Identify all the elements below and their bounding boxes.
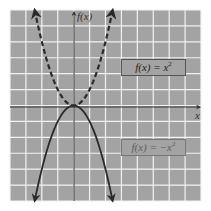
x-axis-label: x [195, 109, 200, 121]
plot-area [0, 0, 211, 211]
legend-exponent-neg-x-squared: 2 [172, 140, 176, 148]
legend-exponent-x-squared: 2 [168, 60, 172, 68]
legend-box-x-squared: f(x) = x2 [121, 59, 186, 76]
legend-text-neg-x-squared: f(x) = −x [132, 141, 173, 153]
y-axis-label: f(x) [77, 10, 92, 22]
legend-box-neg-x-squared: f(x) = −x2 [121, 139, 186, 156]
legend-text-x-squared: f(x) = x [135, 61, 168, 73]
graph-figure: f(x) x f(x) = x2 f(x) = −x2 [0, 0, 211, 211]
